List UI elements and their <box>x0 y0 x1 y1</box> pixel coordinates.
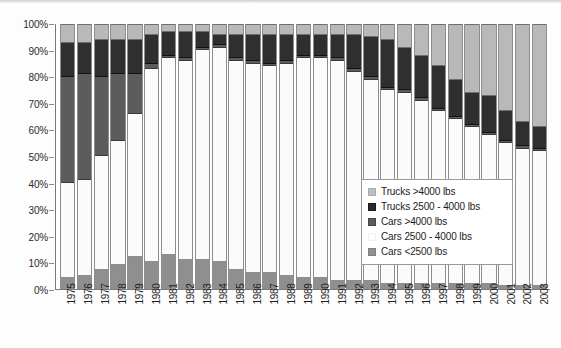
bar-segment <box>280 64 293 276</box>
bar-segment <box>280 35 293 62</box>
x-axis-tick: 1996 <box>414 292 429 348</box>
bar-segment <box>533 24 546 127</box>
bar-segment <box>128 114 141 257</box>
x-axis-tick: 1986 <box>245 292 260 348</box>
legend-item[interactable]: Cars <2500 lbs <box>368 244 507 259</box>
top-divider <box>0 0 561 3</box>
bar-1992[interactable] <box>346 24 361 289</box>
x-axis-tick: 1977 <box>93 292 108 348</box>
y-axis-tick-mark <box>49 77 54 78</box>
stacked-bar-chart: 0%10%20%30%40%50%60%70%80%90%100% 197519… <box>0 0 561 348</box>
legend-swatch-icon <box>368 248 376 256</box>
bar-1979[interactable] <box>127 24 142 289</box>
bar-segment <box>465 93 478 125</box>
bar-1986[interactable] <box>245 24 260 289</box>
bar-segment <box>516 122 529 146</box>
y-axis-tick-mark <box>49 157 54 158</box>
bar-segment <box>297 24 310 35</box>
bar-segment <box>297 35 310 56</box>
y-axis-tick-label: 10% <box>29 258 48 269</box>
bar-segment <box>229 61 242 270</box>
bar-segment <box>432 24 445 66</box>
bar-segment <box>347 24 360 35</box>
legend-item[interactable]: Trucks 2500 - 4000 lbs <box>368 199 507 214</box>
y-axis-tick-label: 0% <box>34 285 48 296</box>
x-axis-tick: 1989 <box>295 292 310 348</box>
x-axis-tick: 1995 <box>397 292 412 348</box>
y-axis-tick-label: 30% <box>29 205 48 216</box>
legend-swatch-icon <box>368 218 376 226</box>
legend-swatch-icon <box>368 233 376 241</box>
y-axis-tick-mark <box>49 263 54 264</box>
y-axis-tick-mark <box>49 51 54 52</box>
bar-segment <box>263 24 276 35</box>
x-axis-tick: 1988 <box>278 292 293 348</box>
bar-1991[interactable] <box>330 24 345 289</box>
y-axis-tick-label: 20% <box>29 231 48 242</box>
bar-2003[interactable] <box>532 24 547 289</box>
bar-1984[interactable] <box>212 24 227 289</box>
bar-segment <box>213 48 226 263</box>
bar-segment <box>415 24 428 56</box>
x-axis-tick: 1987 <box>261 292 276 348</box>
y-axis-tick-label: 40% <box>29 178 48 189</box>
y-axis-tick-label: 50% <box>29 152 48 163</box>
x-axis-tick: 1976 <box>76 292 91 348</box>
bar-segment <box>78 24 91 43</box>
bar-1990[interactable] <box>313 24 328 289</box>
y-axis-tick-mark <box>49 104 54 105</box>
bar-segment <box>297 58 310 278</box>
x-axis-tick: 1997 <box>430 292 445 348</box>
bar-segment <box>61 43 74 77</box>
legend-item[interactable]: Cars 2500 - 4000 lbs <box>368 229 507 244</box>
bar-segment <box>364 24 377 37</box>
x-axis-tick: 1998 <box>447 292 462 348</box>
legend-label: Cars >4000 lbs <box>381 216 447 227</box>
legend-swatch-icon <box>368 188 376 196</box>
bar-segment <box>78 43 91 75</box>
legend-item[interactable]: Cars >4000 lbs <box>368 214 507 229</box>
bar-segment <box>398 48 411 90</box>
legend-label: Trucks >4000 lbs <box>381 186 455 197</box>
bar-1977[interactable] <box>94 24 109 289</box>
bar-1988[interactable] <box>279 24 294 289</box>
bar-segment <box>415 56 428 98</box>
bar-segment <box>111 141 124 266</box>
x-axis-tick: 1983 <box>194 292 209 348</box>
bar-1975[interactable] <box>60 24 75 289</box>
bar-segment <box>145 24 158 35</box>
y-axis-tick-mark <box>49 210 54 211</box>
x-axis-tick: 2002 <box>515 292 530 348</box>
bar-1982[interactable] <box>178 24 193 289</box>
x-axis-tick: 1980 <box>143 292 158 348</box>
bar-segment <box>95 77 108 157</box>
x-axis-tick: 1993 <box>363 292 378 348</box>
bar-segment <box>162 32 175 56</box>
bar-segment <box>347 72 360 281</box>
bar-1985[interactable] <box>228 24 243 289</box>
bar-segment <box>280 24 293 35</box>
bar-segment <box>347 35 360 69</box>
bar-segment <box>111 74 124 140</box>
bar-segment <box>381 40 394 88</box>
bar-2002[interactable] <box>515 24 530 289</box>
bar-1978[interactable] <box>110 24 125 289</box>
bar-1976[interactable] <box>77 24 92 289</box>
y-axis-tick-mark <box>49 130 54 131</box>
bar-segment <box>465 24 478 93</box>
bar-1980[interactable] <box>144 24 159 289</box>
bar-segment <box>246 35 259 62</box>
bar-1983[interactable] <box>195 24 210 289</box>
x-axis-tick: 1985 <box>228 292 243 348</box>
bar-segment <box>229 35 242 59</box>
x-axis-tick-label: 2003 <box>539 283 550 304</box>
bar-1981[interactable] <box>161 24 176 289</box>
x-axis-tick: 1984 <box>211 292 226 348</box>
legend-item[interactable]: Trucks >4000 lbs <box>368 184 507 199</box>
x-axis-tick: 1982 <box>177 292 192 348</box>
bar-1987[interactable] <box>262 24 277 289</box>
y-axis-tick-label: 90% <box>29 45 48 56</box>
bar-segment <box>196 32 209 48</box>
x-axis-tick: 1978 <box>109 292 124 348</box>
bar-1989[interactable] <box>296 24 311 289</box>
